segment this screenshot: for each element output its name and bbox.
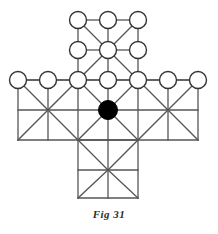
lattice-node[interactable] (70, 12, 87, 29)
lattice-diagonal (78, 170, 108, 198)
lattice-diagonal (18, 110, 48, 140)
lattice-node[interactable] (130, 42, 147, 59)
lattice-node[interactable] (130, 72, 147, 89)
lattice-diagonal (168, 110, 198, 140)
figure-caption: Fig 31 (0, 208, 218, 220)
lattice-diagonal (48, 110, 78, 140)
lattice-diagonal (108, 170, 138, 198)
marked-nodes-layer (99, 101, 118, 120)
lattice-node[interactable] (160, 72, 177, 89)
lattice-diagonal (78, 140, 108, 170)
lattice-node[interactable] (100, 42, 117, 59)
lattice-node[interactable] (190, 72, 207, 89)
lattice-node[interactable] (70, 72, 87, 89)
lattice-diagonal (108, 140, 138, 170)
lattice-node[interactable] (10, 72, 27, 89)
lattice-node[interactable] (70, 42, 87, 59)
open-nodes-layer (10, 12, 207, 89)
lattice-node[interactable] (100, 12, 117, 29)
lattice-diagonal (138, 110, 168, 140)
lattice-node[interactable] (100, 72, 117, 89)
marked-centre-node[interactable] (99, 101, 118, 120)
figure-container: Fig 31 (0, 0, 218, 234)
lattice-node[interactable] (130, 12, 147, 29)
lattice-node[interactable] (40, 72, 57, 89)
lattice-diagram (0, 0, 218, 234)
